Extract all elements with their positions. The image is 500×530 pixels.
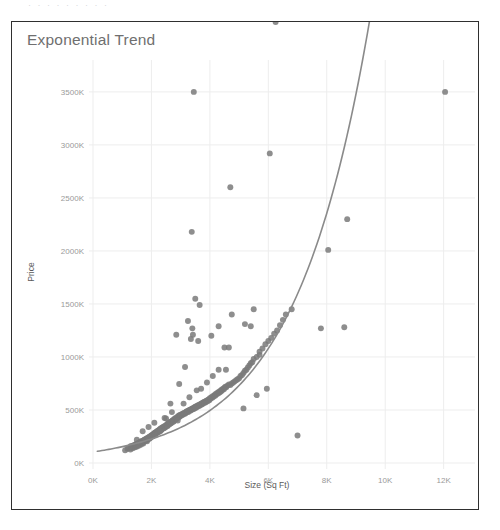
scatter-point[interactable] [162,415,168,421]
cropped-text-row: · · · · · · · · · [0,0,500,11]
scatter-point[interactable] [226,344,232,350]
scatter-point[interactable] [192,296,198,302]
scatter-points[interactable] [122,22,448,453]
scatter-point[interactable] [146,424,152,430]
scatter-point[interactable] [197,302,203,308]
scatter-point[interactable] [181,401,187,407]
scatter-point[interactable] [194,387,200,393]
scatter-point[interactable] [242,321,248,327]
scatter-point[interactable] [241,405,247,411]
scatter-point[interactable] [248,323,254,329]
scatter-point[interactable] [264,386,270,392]
scatter-point[interactable] [185,318,191,324]
scatter-point[interactable] [341,324,347,330]
y-tick-label: 0K [74,459,84,468]
scatter-point[interactable] [186,394,192,400]
scatter-point[interactable] [157,428,163,434]
scatter-point[interactable] [273,22,279,25]
y-tick-label: 2000K [61,247,85,256]
x-axis-title: Size (Sq Ft) [245,480,290,490]
y-tick-labels: 0K500K1000K1500K2000K2500K3000K3500K [61,88,85,468]
y-tick-label: 1000K [61,353,85,362]
scatter-point[interactable] [191,89,197,95]
scatter-point[interactable] [192,405,198,411]
y-tick-label: 2500K [61,194,85,203]
scatter-point[interactable] [229,312,235,318]
scatter-point[interactable] [344,216,350,222]
scatter-point[interactable] [175,418,181,424]
x-tick-label: 8K [322,476,332,485]
exponential-trend-line [97,22,372,451]
scatter-point[interactable] [169,409,175,415]
scatter-point[interactable] [140,428,146,434]
y-tick-label: 500K [65,406,84,415]
scatter-point[interactable] [295,432,301,438]
scatter-plot-svg[interactable]: 0K500K1000K1500K2000K2500K3000K3500K 0K2… [12,22,480,511]
x-tick-label: 2K [147,476,157,485]
scatter-point[interactable] [223,367,229,373]
scatter-point[interactable] [189,325,195,331]
scatter-point[interactable] [189,229,195,235]
x-tick-label: 10K [378,476,393,485]
scatter-point[interactable] [195,338,201,344]
scatter-point[interactable] [208,333,214,339]
y-axis-title: Price [26,262,36,282]
scatter-point[interactable] [227,184,233,190]
plot-area[interactable]: 0K500K1000K1500K2000K2500K3000K3500K 0K2… [12,22,478,509]
scatter-point[interactable] [251,306,257,312]
chart-card: Exponential Trend 0K500K1000K1500K2000K2… [11,21,479,510]
scatter-point[interactable] [210,373,216,379]
x-tick-label: 4K [205,476,215,485]
y-tick-label: 1500K [61,300,85,309]
scatter-point[interactable] [151,420,157,426]
scatter-point[interactable] [216,367,222,373]
x-tick-label: 12K [437,476,452,485]
scatter-point[interactable] [267,150,273,156]
scatter-point[interactable] [182,364,188,370]
scatter-point[interactable] [190,332,196,338]
scatter-point[interactable] [204,379,210,385]
scatter-point[interactable] [216,323,222,329]
x-tick-label: 0K [88,476,98,485]
scatter-point[interactable] [442,89,448,95]
scatter-point[interactable] [254,392,260,398]
y-tick-label: 3500K [61,88,85,97]
gridlines [89,60,475,469]
y-tick-label: 3000K [61,141,85,150]
trend-line [97,22,372,451]
scatter-point[interactable] [173,332,179,338]
scatter-point[interactable] [167,401,173,407]
scatter-point[interactable] [325,247,331,253]
scatter-point[interactable] [318,325,324,331]
scatter-point[interactable] [134,437,140,443]
scatter-point[interactable] [176,381,182,387]
